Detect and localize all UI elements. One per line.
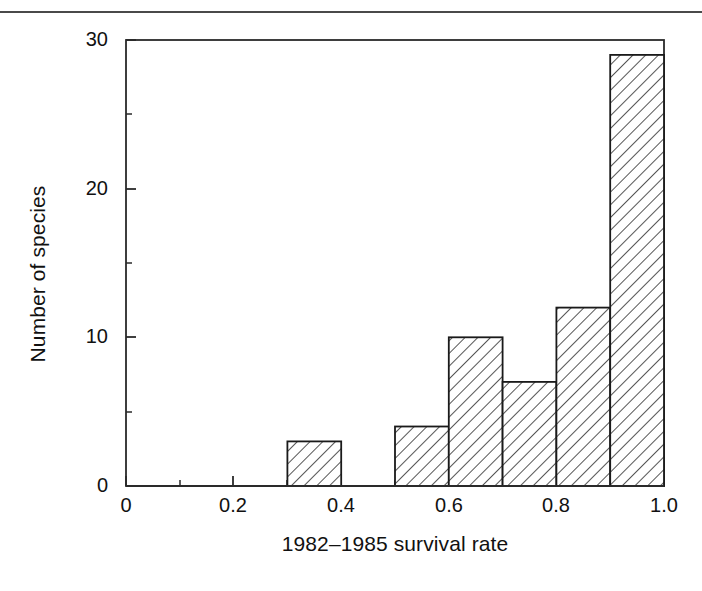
bar-0.6-0.7 — [449, 337, 503, 486]
x-tick-label-0.6: 0.6 — [414, 494, 484, 517]
y-tick-label-30: 30 — [48, 28, 108, 51]
x-tick-label-1.0: 1.0 — [629, 494, 699, 517]
x-tick-label-0.8: 0.8 — [521, 494, 591, 517]
bar-0.3-0.4 — [287, 441, 341, 486]
y-tick-label-10: 10 — [48, 325, 108, 348]
x-axis-title: 1982–1985 survival rate — [126, 532, 664, 556]
x-tick-label-0: 0 — [91, 494, 161, 517]
bar-0.7-0.8 — [503, 382, 557, 486]
figure-container: 0 10 20 30 0 0.2 0.4 0.6 0.8 1.0 Number … — [0, 0, 702, 591]
y-tick-label-20: 20 — [48, 177, 108, 200]
y-axis-ticks — [126, 40, 136, 486]
y-axis-title: Number of species — [26, 164, 50, 384]
x-tick-label-0.4: 0.4 — [306, 494, 376, 517]
bar-0.8-0.9 — [556, 308, 610, 486]
bar-0.9-1.0 — [610, 55, 664, 486]
bar-series — [287, 55, 664, 486]
x-tick-label-0.2: 0.2 — [198, 494, 268, 517]
bar-0.5-0.6 — [395, 427, 449, 487]
